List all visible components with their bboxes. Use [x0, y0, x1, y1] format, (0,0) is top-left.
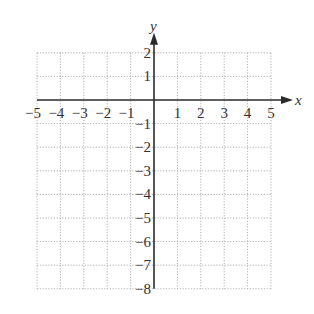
- x-tick-label: 2: [197, 105, 205, 121]
- x-tick-label: 3: [220, 105, 228, 121]
- y-tick-label: −5: [135, 210, 151, 226]
- y-axis-arrow-icon: [150, 33, 158, 45]
- x-axis-arrow-icon: [281, 96, 293, 104]
- y-tick-label: −8: [135, 281, 151, 297]
- x-tick-label: −1: [119, 105, 135, 121]
- y-tick-label: −6: [135, 234, 151, 250]
- axes: [37, 33, 293, 289]
- y-tick-label: 2: [144, 45, 152, 61]
- y-tick-label: −1: [135, 116, 151, 132]
- y-tick-label: −7: [135, 257, 151, 273]
- x-tick-label: −4: [48, 105, 64, 121]
- x-tick-label: −3: [72, 105, 88, 121]
- x-tick-label: 1: [174, 105, 182, 121]
- y-tick-label: 1: [144, 68, 152, 84]
- x-tick-label: −5: [25, 105, 41, 121]
- y-tick-label: −4: [135, 186, 151, 202]
- y-axis-label: y: [148, 18, 157, 34]
- coordinate-plane: −5−4−3−2−112345 21−1−2−3−4−5−6−7−8 x y: [0, 0, 314, 314]
- x-tick-label: 4: [244, 105, 252, 121]
- x-tick-label: 5: [267, 105, 275, 121]
- y-tick-label: −2: [135, 139, 151, 155]
- x-tick-label: −2: [95, 105, 111, 121]
- y-tick-labels: 21−1−2−3−4−5−6−7−8: [135, 45, 151, 297]
- x-axis-label: x: [294, 92, 302, 108]
- y-tick-label: −3: [135, 163, 151, 179]
